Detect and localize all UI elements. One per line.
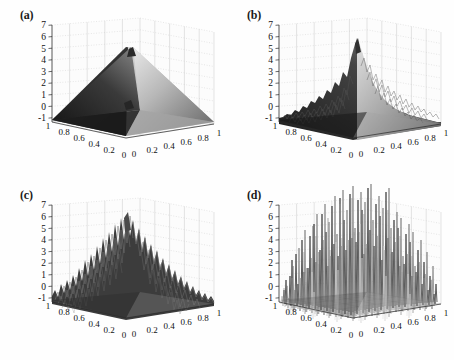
ytick-b-1: 1 bbox=[273, 121, 278, 131]
ztick-b-4: 4 bbox=[268, 55, 273, 65]
ztick-b-3: 3 bbox=[268, 67, 273, 77]
figure-canvas: (a) bbox=[0, 0, 454, 360]
ztick-a-0: 0 bbox=[41, 102, 46, 112]
ztick-d-5: 5 bbox=[268, 224, 273, 234]
ztick-b-1: 1 bbox=[268, 90, 273, 100]
ytick-c-1: 1 bbox=[46, 301, 51, 311]
xtick-c-1: 1 bbox=[217, 308, 222, 318]
ztick-d-2: 2 bbox=[268, 258, 273, 268]
ztick-d-7: 7 bbox=[268, 200, 273, 210]
xtick-a-08: 0.8 bbox=[197, 133, 209, 143]
ytick-c-0: 0 bbox=[122, 330, 127, 340]
ztick-d-3: 3 bbox=[268, 247, 273, 257]
xtick-b-04: 0.4 bbox=[390, 141, 402, 151]
xtick-b-08: 0.8 bbox=[424, 133, 436, 143]
ytick-a-04: 0.4 bbox=[88, 139, 100, 149]
panel-c: (c) bbox=[0, 180, 227, 360]
ytick-b-04: 0.4 bbox=[315, 139, 327, 149]
xtick-b-1: 1 bbox=[444, 128, 449, 138]
ztick-c-7: 7 bbox=[41, 200, 46, 210]
panel-d-svg: 7 6 5 4 3 2 1 0 -1 1 0.8 0.6 0.4 0.2 0 0… bbox=[227, 180, 454, 360]
ytick-d-02: 0.2 bbox=[330, 325, 341, 335]
ytick-c-08: 0.8 bbox=[58, 307, 70, 317]
ytick-a-1: 1 bbox=[46, 121, 51, 131]
xtick-d-0: 0 bbox=[359, 329, 364, 339]
ztick-d-1: 1 bbox=[268, 270, 273, 280]
xtick-d-06: 0.6 bbox=[407, 317, 419, 327]
ytick-a-0: 0 bbox=[122, 150, 127, 160]
xtick-a-04: 0.4 bbox=[163, 141, 175, 151]
ytick-c-02: 0.2 bbox=[103, 325, 114, 335]
xtick-c-08: 0.8 bbox=[197, 313, 209, 323]
ztick-c-2: 2 bbox=[41, 258, 46, 268]
xtick-d-02: 0.2 bbox=[373, 325, 384, 335]
xtick-c-0: 0 bbox=[132, 329, 137, 339]
ztick-c-3: 3 bbox=[41, 247, 46, 257]
ztick-a-7: 7 bbox=[41, 20, 46, 30]
xtick-b-02: 0.2 bbox=[373, 145, 384, 155]
xtick-d-08: 0.8 bbox=[424, 313, 436, 323]
ytick-a-06: 0.6 bbox=[73, 133, 85, 143]
ytick-a-02: 0.2 bbox=[103, 145, 114, 155]
panel-b-svg: 7 6 5 4 3 2 1 0 -1 1 0.8 0.6 0.4 0.2 0 0… bbox=[227, 0, 454, 180]
ztick-a-3: 3 bbox=[41, 67, 46, 77]
ztick-a-4: 4 bbox=[41, 55, 46, 65]
xtick-a-06: 0.6 bbox=[180, 137, 192, 147]
panel-a: (a) bbox=[0, 0, 227, 180]
ztick-c-0: 0 bbox=[41, 282, 46, 292]
ztick-c-4: 4 bbox=[41, 235, 46, 245]
ytick-d-04: 0.4 bbox=[315, 319, 327, 329]
xtick-d-04: 0.4 bbox=[390, 321, 402, 331]
ytick-a-08: 0.8 bbox=[58, 127, 70, 137]
ztick-c-1: 1 bbox=[41, 270, 46, 280]
ztick-a-5: 5 bbox=[41, 44, 46, 54]
ztick-a-6: 6 bbox=[41, 32, 46, 42]
ztick-c-5: 5 bbox=[41, 224, 46, 234]
ytick-b-06: 0.6 bbox=[300, 133, 312, 143]
panel-c-svg: 7 6 5 4 3 2 1 0 -1 1 0.8 0.6 0.4 0.2 0 0… bbox=[0, 180, 227, 360]
xtick-b-06: 0.6 bbox=[407, 137, 419, 147]
panel-b: (b) bbox=[227, 0, 454, 180]
panel-d: (d) bbox=[227, 180, 454, 360]
ytick-b-0: 0 bbox=[349, 150, 354, 160]
xtick-c-06: 0.6 bbox=[180, 317, 192, 327]
xtick-c-02: 0.2 bbox=[146, 325, 157, 335]
ytick-c-06: 0.6 bbox=[73, 313, 85, 323]
panel-a-svg: 7 6 5 4 3 2 1 0 -1 1 0.8 0.6 0.4 0.2 0 0 bbox=[0, 0, 227, 180]
xtick-b-0: 0 bbox=[359, 149, 364, 159]
xtick-d-1: 1 bbox=[444, 308, 449, 318]
ytick-d-08: 0.8 bbox=[285, 307, 297, 317]
ztick-b-0: 0 bbox=[268, 102, 273, 112]
panel-d-plot: 7 6 5 4 3 2 1 0 -1 1 0.8 0.6 0.4 0.2 0 0… bbox=[227, 180, 454, 360]
ztick-a-2: 2 bbox=[41, 78, 46, 88]
ztick-d-4: 4 bbox=[268, 235, 273, 245]
ytick-d-06: 0.6 bbox=[300, 313, 312, 323]
ztick-c-6: 6 bbox=[41, 212, 46, 222]
ztick-b-5: 5 bbox=[268, 44, 273, 54]
ztick-a-1: 1 bbox=[41, 90, 46, 100]
ztick-b-2: 2 bbox=[268, 78, 273, 88]
xtick-a-1: 1 bbox=[217, 128, 222, 138]
ztick-b-6: 6 bbox=[268, 32, 273, 42]
ytick-d-0: 0 bbox=[349, 330, 354, 340]
xtick-c-04: 0.4 bbox=[163, 321, 175, 331]
panel-c-plot: 7 6 5 4 3 2 1 0 -1 1 0.8 0.6 0.4 0.2 0 0… bbox=[0, 180, 227, 360]
panel-a-plot: 7 6 5 4 3 2 1 0 -1 1 0.8 0.6 0.4 0.2 0 0 bbox=[0, 0, 227, 180]
panel-b-plot: 7 6 5 4 3 2 1 0 -1 1 0.8 0.6 0.4 0.2 0 0… bbox=[227, 0, 454, 180]
ztick-d-0: 0 bbox=[268, 282, 273, 292]
ytick-d-1: 1 bbox=[273, 301, 278, 311]
xtick-a-0: 0 bbox=[132, 149, 137, 159]
ytick-c-04: 0.4 bbox=[88, 319, 100, 329]
ztick-d-6: 6 bbox=[268, 212, 273, 222]
ytick-b-02: 0.2 bbox=[330, 145, 341, 155]
ztick-b-7: 7 bbox=[268, 20, 273, 30]
ytick-b-08: 0.8 bbox=[285, 127, 297, 137]
xtick-a-02: 0.2 bbox=[146, 145, 157, 155]
